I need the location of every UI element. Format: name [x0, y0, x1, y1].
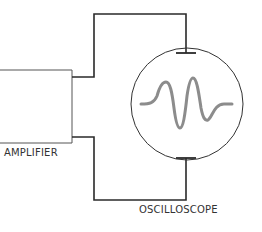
- oscilloscope-label: OSCILLOSCOPE: [139, 204, 218, 215]
- waveform: [141, 78, 232, 128]
- bottom-wire: [72, 137, 186, 200]
- amplifier-box: [0, 70, 72, 143]
- amplifier-label: AMPLIFIER: [4, 147, 58, 158]
- diagram-canvas: [0, 0, 262, 232]
- top-wire: [72, 14, 186, 77]
